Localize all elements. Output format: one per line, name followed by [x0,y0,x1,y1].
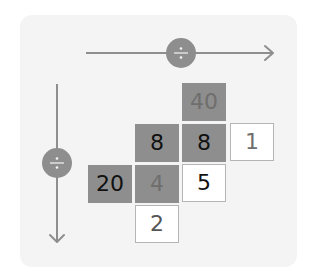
cell-8-left: 8 [135,124,179,162]
cell-8-right: 8 [182,124,226,162]
cell-40: 40 [182,83,226,121]
cell-1: 1 [230,123,274,161]
cell-2: 2 [135,205,179,243]
cell-5: 5 [182,164,226,202]
cell-4: 4 [135,165,179,203]
cell-20: 20 [88,165,132,203]
